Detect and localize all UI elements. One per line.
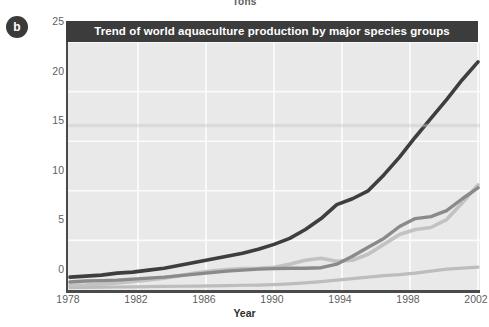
x-tick-label: 1990 bbox=[250, 293, 294, 305]
x-tick-label: 1994 bbox=[318, 293, 362, 305]
x-tick-label: 1986 bbox=[182, 293, 226, 305]
y-tick-label: 15 bbox=[38, 115, 64, 125]
y-tick-label: 20 bbox=[38, 66, 64, 76]
y-axis-ticks: 0510152025 bbox=[34, 21, 64, 269]
x-tick-label: 1982 bbox=[114, 293, 158, 305]
top-caption-fragment: Tons bbox=[0, 0, 489, 8]
x-axis-label: Year bbox=[0, 307, 489, 319]
chart-title: Trend of world aquaculture production by… bbox=[66, 21, 478, 42]
y-tick-label: 25 bbox=[38, 16, 64, 26]
y-tick-label: 10 bbox=[38, 165, 64, 175]
y-tick-label: 5 bbox=[38, 214, 64, 224]
x-tick-label: 2002 bbox=[454, 293, 489, 305]
panel-letter-badge: b bbox=[6, 16, 28, 38]
plot-area bbox=[66, 42, 480, 293]
x-tick-label: 1998 bbox=[386, 293, 430, 305]
x-tick-label: 1978 bbox=[46, 293, 90, 305]
y-tick-label: 0 bbox=[38, 264, 64, 274]
chart-canvas bbox=[68, 42, 480, 290]
figure-container: Trend of world aquaculture production by… bbox=[66, 21, 478, 290]
